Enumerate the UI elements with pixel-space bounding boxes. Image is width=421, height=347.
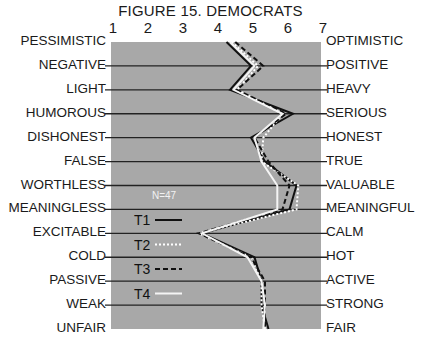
legend-label: T2 — [134, 237, 151, 253]
sample-size-annotation: N=47 — [152, 190, 177, 201]
plot-area: N=47T1T2T3T4 — [0, 0, 421, 347]
legend-label: T4 — [134, 286, 151, 302]
legend-label: T3 — [134, 261, 151, 277]
legend-label: T1 — [134, 212, 151, 228]
